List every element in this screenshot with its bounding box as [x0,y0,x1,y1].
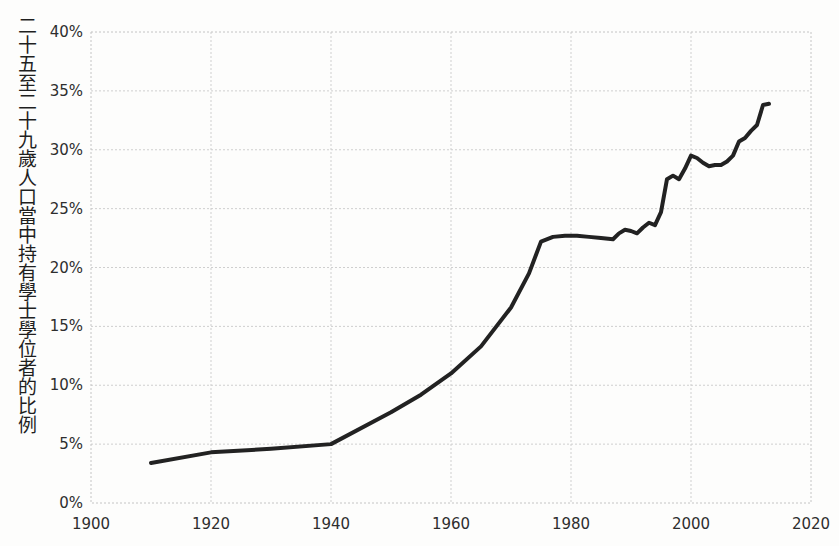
y-tick-label: 30% [0,141,83,159]
x-tick-label: 1900 [72,515,110,533]
x-tick-label: 2020 [792,515,830,533]
grid-lines [91,32,811,503]
chart-container: 二十五至二十九歲人口當中持有學士學位者的比例 0%5%10%15%20%25%3… [0,0,839,546]
y-tick-label: 20% [0,259,83,277]
x-tick-label: 2000 [672,515,710,533]
data-series-lines [151,104,769,463]
y-tick-label: 5% [0,435,83,453]
y-tick-label: 35% [0,82,83,100]
x-tick-label: 1960 [432,515,470,533]
x-tick-label: 1980 [552,515,590,533]
chart-plot-svg [0,0,839,546]
x-tick-label: 1920 [192,515,230,533]
y-tick-label: 10% [0,376,83,394]
y-tick-label: 40% [0,23,83,41]
y-tick-label: 0% [0,494,83,512]
y-tick-label: 25% [0,200,83,218]
y-tick-label: 15% [0,317,83,335]
data-line-bachelor_degree_share [151,104,769,463]
x-tick-label: 1940 [312,515,350,533]
